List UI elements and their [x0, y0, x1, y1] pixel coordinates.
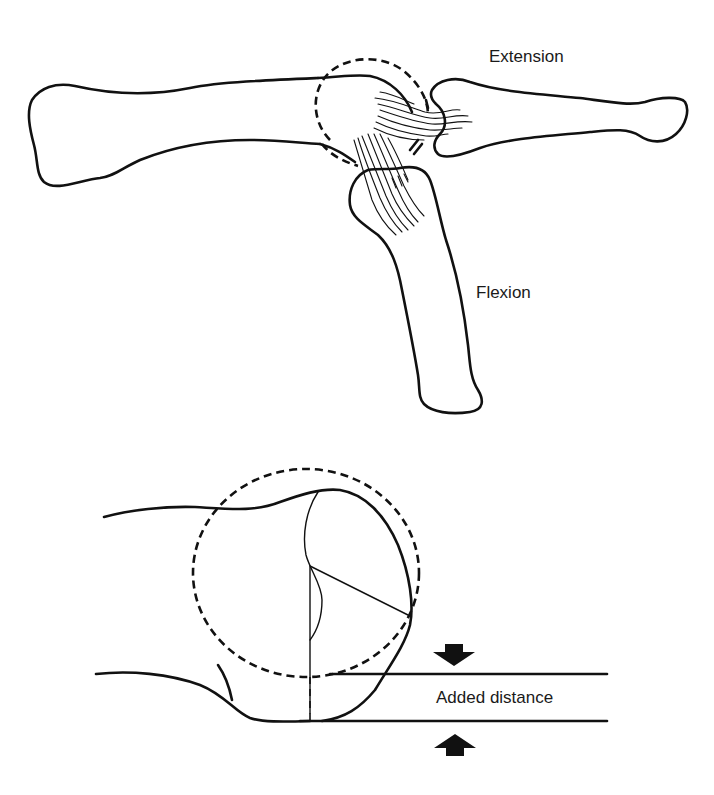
proximal-bone-head [318, 75, 412, 112]
flexed-distal-bone [350, 167, 482, 413]
bone-lower-contour [96, 672, 310, 721]
joint-circle-top [316, 59, 428, 140]
joint-connector [410, 140, 422, 154]
arrow-up-icon [434, 734, 476, 756]
extension-label: Extension [489, 48, 564, 65]
top-panel [29, 59, 687, 413]
proximal-bone [29, 78, 320, 186]
bone-upper-contour [104, 490, 412, 721]
arrow-down-icon [433, 644, 475, 666]
bone-lower-spur [218, 665, 232, 700]
bottom-panel [96, 469, 607, 756]
flexion-label: Flexion [476, 284, 531, 301]
extended-distal-bone [431, 79, 687, 156]
cartilage-curve [305, 492, 323, 640]
joint-flexion-diagram [0, 0, 714, 795]
joint-circle-bottom [193, 469, 419, 677]
added-distance-label: Added distance [436, 689, 553, 706]
